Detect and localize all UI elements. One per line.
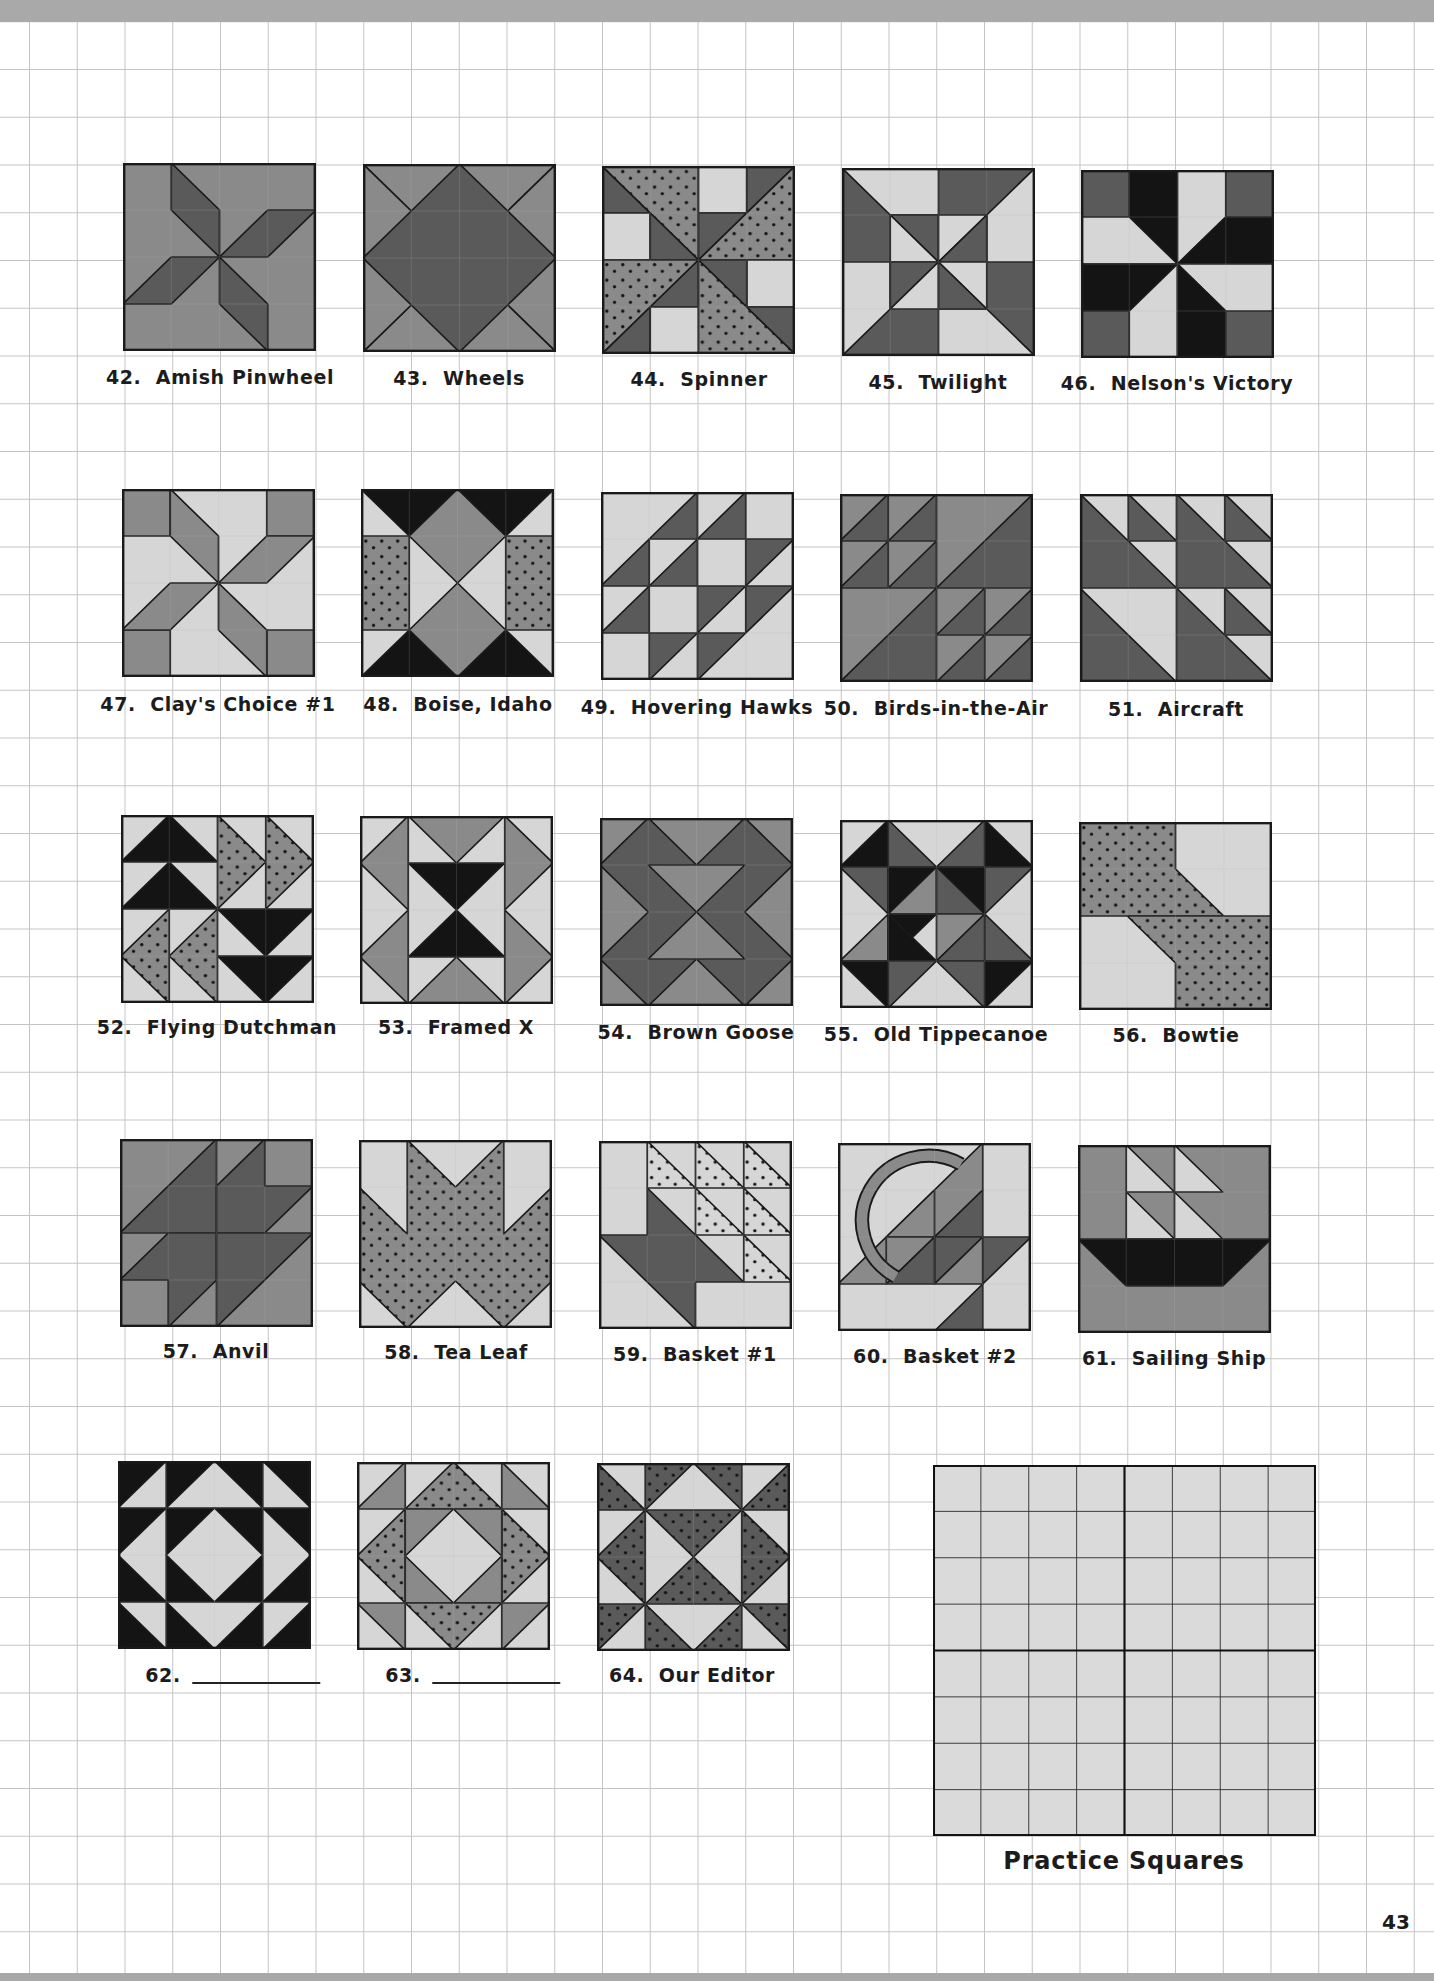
block-number: 57.: [163, 1340, 198, 1362]
block-number: 53.: [378, 1016, 413, 1038]
block-number: 46.: [1061, 372, 1096, 394]
quilt-block-55: [840, 820, 1033, 1008]
block-label-58: 58. Tea Leaf: [384, 1341, 528, 1363]
quilt-block-graphic: [1078, 1145, 1271, 1333]
block-number: 58.: [384, 1341, 419, 1363]
quilt-block-58: [359, 1140, 552, 1328]
block-number: 64.: [609, 1664, 644, 1686]
quilt-block-62: [118, 1461, 311, 1649]
block-number: 51.: [1108, 698, 1143, 720]
quilt-block-graphic: [122, 489, 315, 677]
block-label-59: 59. Basket #1: [613, 1343, 777, 1365]
block-name: Aircraft: [1158, 698, 1244, 720]
block-number: 55.: [824, 1023, 859, 1045]
block-number: 50.: [824, 697, 859, 719]
block-name: Flying Dutchman: [147, 1016, 337, 1038]
quilt-block-graphic: [363, 164, 556, 352]
quilt-block-52: [121, 815, 314, 1003]
block-label-47: 47. Clay's Choice #1: [100, 693, 335, 715]
block-name: Brown Goose: [647, 1021, 794, 1043]
quilt-block-graphic: [361, 489, 554, 677]
block-label-61: 61. Sailing Ship: [1082, 1347, 1266, 1369]
quilt-block-graphic: [120, 1139, 313, 1327]
block-label-52: 52. Flying Dutchman: [97, 1016, 337, 1038]
practice-squares-grid[interactable]: [933, 1465, 1316, 1836]
block-label-57: 57. Anvil: [163, 1340, 270, 1362]
quilt-block-graphic: [600, 818, 793, 1006]
quilt-block-56: [1079, 822, 1272, 1010]
block-number: 43.: [393, 367, 428, 389]
quilt-block-graphic: [842, 168, 1035, 356]
quilt-block-57: [120, 1139, 313, 1327]
block-name: Boise, Idaho: [413, 693, 552, 715]
quilt-block-43: [363, 164, 556, 352]
block-label-54: 54. Brown Goose: [597, 1021, 794, 1043]
block-label-63: 63.: [385, 1664, 560, 1686]
quilt-block-graphic: [123, 163, 316, 351]
block-number: 48.: [363, 693, 398, 715]
block-name: Twilight: [918, 371, 1007, 393]
block-number: 47.: [100, 693, 135, 715]
quilt-block-63: [357, 1462, 550, 1650]
practice-grid-graphic: [933, 1465, 1316, 1836]
quilt-block-48: [361, 489, 554, 677]
quilt-block-graphic: [1080, 494, 1273, 682]
quilt-block-44: [602, 166, 795, 354]
quilt-block-graphic: [840, 820, 1033, 1008]
block-name: Our Editor: [659, 1664, 775, 1686]
quilt-block-graphic: [121, 815, 314, 1003]
quilt-block-graphic: [597, 1463, 790, 1651]
quilt-block-graphic: [359, 1140, 552, 1328]
block-number: 60.: [853, 1345, 888, 1367]
block-name: Basket #2: [903, 1345, 1017, 1367]
block-name: Tea Leaf: [434, 1341, 528, 1363]
block-label-46: 46. Nelson's Victory: [1061, 372, 1293, 394]
quilt-block-graphic: [1081, 170, 1274, 358]
block-name: Spinner: [680, 368, 767, 390]
top-scan-band: [0, 0, 1434, 22]
quilt-block-60: [838, 1143, 1031, 1331]
quilt-block-graphic: [118, 1461, 311, 1649]
block-number: 56.: [1112, 1024, 1147, 1046]
quilt-block-graphic: [838, 1143, 1031, 1331]
quilt-block-graphic: [602, 166, 795, 354]
block-name: Wheels: [443, 367, 525, 389]
block-name-blank-line[interactable]: [193, 1682, 321, 1684]
block-name: Bowtie: [1162, 1024, 1239, 1046]
block-label-50: 50. Birds-in-the-Air: [824, 697, 1049, 719]
quilt-block-graphic: [840, 494, 1033, 682]
bottom-scan-band: [0, 1973, 1434, 1981]
quilt-block-graphic: [357, 1462, 550, 1650]
block-label-55: 55. Old Tippecanoe: [824, 1023, 1048, 1045]
quilt-block-graphic: [599, 1141, 792, 1329]
block-label-49: 49. Hovering Hawks: [581, 696, 813, 718]
block-label-43: 43. Wheels: [393, 367, 525, 389]
block-number: 62.: [145, 1664, 180, 1686]
block-label-62: 62.: [145, 1664, 320, 1686]
block-name-blank-line[interactable]: [433, 1682, 561, 1684]
block-number: 42.: [106, 366, 141, 388]
quilt-block-graphic: [1079, 822, 1272, 1010]
quilt-block-49: [601, 492, 794, 680]
block-name: Basket #1: [663, 1343, 777, 1365]
quilt-block-45: [842, 168, 1035, 356]
block-name: Hovering Hawks: [631, 696, 813, 718]
quilt-block-50: [840, 494, 1033, 682]
block-number: 45.: [869, 371, 904, 393]
page-number: 43: [1382, 1910, 1410, 1934]
block-name: Sailing Ship: [1132, 1347, 1266, 1369]
block-name: Anvil: [213, 1340, 270, 1362]
quilt-block-51: [1080, 494, 1273, 682]
block-number: 54.: [597, 1021, 632, 1043]
quilt-block-graphic: [601, 492, 794, 680]
block-number: 44.: [630, 368, 665, 390]
quilt-block-54: [600, 818, 793, 1006]
quilt-block-47: [122, 489, 315, 677]
block-number: 49.: [581, 696, 616, 718]
block-name: Birds-in-the-Air: [874, 697, 1049, 719]
quilt-block-59: [599, 1141, 792, 1329]
quilt-block-46: [1081, 170, 1274, 358]
block-number: 59.: [613, 1343, 648, 1365]
block-label-53: 53. Framed X: [378, 1016, 534, 1038]
quilt-block-graphic: [360, 816, 553, 1004]
